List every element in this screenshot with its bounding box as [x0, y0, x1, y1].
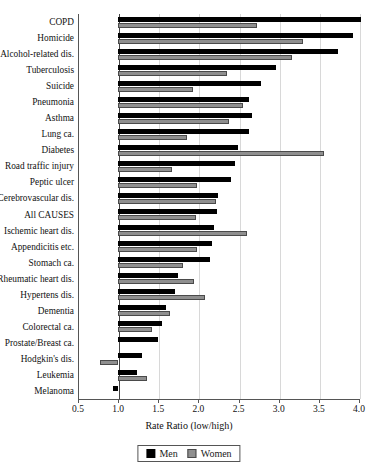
tick-mark-2: [198, 399, 199, 403]
bar-women: [118, 135, 187, 140]
bar-men: [118, 177, 231, 182]
category-label: Hodgkin's dis.: [21, 354, 74, 364]
bar-women: [118, 151, 324, 156]
bar-men: [118, 129, 249, 134]
bar-women: [118, 279, 194, 284]
category-label: Colorectal ca.: [22, 322, 74, 332]
tick-mark-1.5: [158, 399, 159, 403]
bar-men: [118, 145, 238, 150]
category-label: Ischemic heart dis.: [4, 226, 74, 236]
category-label: Tuberculosis: [26, 65, 74, 75]
tick-mark-1: [118, 399, 119, 403]
bar-men: [118, 321, 162, 326]
legend-entry-women: Women: [188, 448, 232, 459]
tick-mark-3.5: [319, 399, 320, 403]
category-label: Homicide: [37, 33, 74, 43]
category-label: Stomach ca.: [29, 258, 74, 268]
category-label: Diabetes: [41, 145, 74, 155]
bar-women: [118, 71, 226, 76]
x-tick-label: 3.0: [273, 404, 285, 414]
legend-label-women: Women: [201, 448, 232, 459]
bar-women: [118, 231, 246, 236]
category-label: Leukemia: [37, 370, 74, 380]
bar-men: [118, 113, 252, 118]
gridline-4: [360, 14, 361, 399]
category-label: Suicide: [46, 81, 74, 91]
tick-mark-3: [279, 399, 280, 403]
bar-men: [118, 305, 166, 310]
bar-women: [118, 199, 216, 204]
x-tick-label: 4.0: [353, 404, 365, 414]
category-axis-labels: COPDHomicideAlcohol-related dis.Tubercul…: [0, 14, 74, 399]
category-label: COPD: [49, 17, 74, 27]
bar-men: [118, 225, 214, 230]
bar-men: [118, 33, 352, 38]
bar-men: [118, 257, 210, 262]
x-tick-label: 1.5: [152, 404, 164, 414]
x-tick-label: 2.5: [233, 404, 245, 414]
category-label: Peptic ulcer: [30, 177, 74, 187]
bar-men: [118, 273, 178, 278]
chart-legend: Men Women: [137, 445, 240, 462]
category-label: Alcohol-related dis.: [0, 49, 74, 59]
bar-men: [113, 386, 119, 391]
x-axis-title: Rate Ratio (low/high): [0, 420, 378, 431]
bar-men: [118, 97, 249, 102]
bar-men: [118, 65, 276, 70]
category-label: Lung ca.: [41, 129, 74, 139]
tick-mark-0.5: [78, 399, 79, 403]
legend-swatch-men-icon: [146, 449, 155, 458]
category-label: Asthma: [45, 113, 74, 123]
category-label: Hypertens dis.: [20, 290, 74, 300]
x-tick-label: 0.5: [72, 404, 84, 414]
bar-women: [118, 23, 257, 28]
bar-men: [118, 241, 212, 246]
rate-ratio-bar-chart: COPDHomicideAlcohol-related dis.Tubercul…: [0, 0, 378, 472]
bar-women: [118, 215, 196, 220]
bar-women: [118, 327, 152, 332]
category-label: Melanoma: [34, 386, 74, 396]
bar-women: [118, 39, 303, 44]
bar-men: [118, 209, 217, 214]
category-label: Rheumatic heart dis.: [0, 274, 74, 284]
bar-women: [118, 119, 229, 124]
legend-swatch-women-icon: [188, 449, 197, 458]
bar-women: [118, 55, 292, 60]
bar-men: [118, 17, 360, 22]
bar-men: [118, 370, 137, 375]
category-label: Prostate/Breast ca.: [5, 338, 74, 348]
bar-women: [118, 376, 147, 381]
category-label: Pneumonia: [32, 97, 74, 107]
bar-women: [118, 167, 172, 172]
bar-women: [118, 183, 197, 188]
bar-women: [100, 360, 118, 365]
bar-men: [118, 49, 338, 54]
bar-women: [118, 295, 205, 300]
bar-women: [118, 247, 197, 252]
category-label: Road traffic injury: [5, 161, 74, 171]
tick-mark-4: [359, 399, 360, 403]
bar-women: [118, 311, 170, 316]
x-tick-label: 2.0: [192, 404, 204, 414]
bar-men: [118, 161, 235, 166]
bars-layer: [78, 14, 359, 399]
x-tick-label: 3.5: [313, 404, 325, 414]
bar-men: [118, 353, 142, 358]
x-axis-ticks: 0.51.01.52.02.53.03.54.0: [78, 399, 359, 419]
legend-entry-men: Men: [146, 448, 177, 459]
tick-mark-2.5: [239, 399, 240, 403]
bar-women: [118, 87, 193, 92]
bar-men: [118, 193, 218, 198]
legend-label-men: Men: [159, 448, 177, 459]
category-label: Dementia: [38, 306, 74, 316]
category-label: Cerebrovascular dis.: [0, 193, 74, 203]
category-label: Appendicitis etc.: [11, 242, 74, 252]
bar-men: [118, 81, 261, 86]
bar-women: [118, 103, 242, 108]
bar-men: [118, 337, 158, 342]
x-tick-label: 1.0: [112, 404, 124, 414]
category-label: All CAUSES: [24, 210, 74, 220]
bar-men: [118, 289, 175, 294]
bar-women: [118, 263, 183, 268]
